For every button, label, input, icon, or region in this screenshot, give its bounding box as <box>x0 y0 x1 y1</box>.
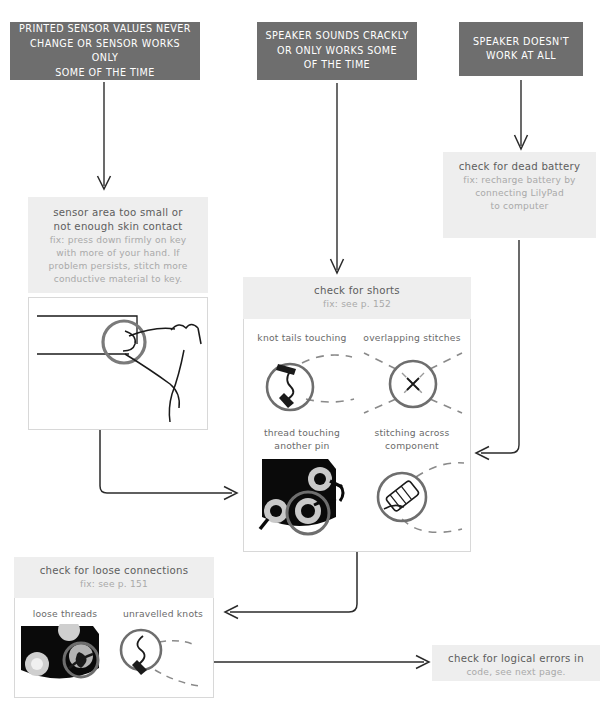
solution-box-logical-errors: check for logical errors in code, see ne… <box>432 645 600 681</box>
dead-battery-title: check for dead battery <box>451 160 588 174</box>
loose-connections-fix: fix: see p. 151 <box>20 578 208 591</box>
problem-line: OR ONLY WORKS SOME <box>265 44 408 59</box>
connector-sensor-problem-to-sensor-area <box>98 82 111 189</box>
sensor-area-fix-line: conductive material to key. <box>36 273 200 286</box>
problem-box-sensor: PRINTED SENSOR VALUES NEVER CHANGE OR SE… <box>10 22 200 80</box>
flowchart-canvas: PRINTED SENSOR VALUES NEVER CHANGE OR SE… <box>0 0 611 708</box>
sensor-area-fix-line: with more of your hand. If <box>36 247 200 260</box>
problem-line: CHANGE OR SENSOR WORKS ONLY <box>16 37 194 66</box>
connector-speaker-crackly-to-shorts <box>331 83 344 273</box>
problem-line: SPEAKER SOUNDS CRACKLY <box>265 29 408 44</box>
solution-box-dead-battery: check for dead battery fix: recharge bat… <box>443 152 596 238</box>
connector-sensor-area-to-shorts <box>100 429 237 500</box>
dead-battery-fix-line: to computer <box>451 200 588 213</box>
problem-line: WORK AT ALL <box>473 49 569 64</box>
figure-panel-finger-on-key <box>28 297 208 430</box>
connector-shorts-to-loose-connections <box>225 552 357 619</box>
figure-caption-overlapping-stitches: overlapping stitches <box>356 332 468 345</box>
figure-caption-thread-touching-another-pin: thread touching another pin <box>248 427 356 452</box>
thread-touching-another-pin-illustration <box>250 457 356 545</box>
overlapping-stitches-illustration <box>358 347 468 419</box>
problem-line: OF THE TIME <box>265 58 408 73</box>
sensor-area-fix-line: fix: press down firmly on key <box>36 234 200 247</box>
problem-line: SPEAKER DOESN'T <box>473 35 569 50</box>
shorts-header: check for shorts fix: see p. 152 <box>243 277 471 319</box>
connector-dead-battery-to-shorts <box>476 240 519 460</box>
figure-caption-knot-tails-touching: knot tails touching <box>248 332 356 345</box>
shorts-figures-panel: knot tails touching overlapping stitches <box>243 319 471 552</box>
unravelled-knots-illustration <box>113 624 213 696</box>
stitching-across-component-illustration <box>358 455 468 545</box>
sensor-area-title-line: not enough skin contact <box>36 220 200 234</box>
figure-caption-stitching-across-component: stitching across component <box>356 427 468 452</box>
dead-battery-fix-line: fix: recharge battery by <box>451 174 588 187</box>
figure-caption-unravelled-knots: unravelled knots <box>113 608 213 621</box>
logical-errors-title: check for logical errors in <box>440 652 592 666</box>
loose-threads-illustration <box>19 624 113 696</box>
problem-box-speaker-crackly: SPEAKER SOUNDS CRACKLY OR ONLY WORKS SOM… <box>257 22 417 80</box>
problem-line: PRINTED SENSOR VALUES NEVER <box>16 22 194 37</box>
logical-errors-fix: code, see next page. <box>440 666 592 679</box>
sensor-area-title-line: sensor area too small or <box>36 206 200 220</box>
knot-tails-touching-illustration <box>250 347 356 419</box>
solution-box-loose-connections: check for loose connections fix: see p. … <box>14 557 214 698</box>
solution-box-shorts: check for shorts fix: see p. 152 knot ta… <box>243 277 471 552</box>
loose-connections-figures-panel: loose threads unravelled knots <box>14 598 214 698</box>
solution-box-sensor-area: sensor area too small or not enough skin… <box>28 197 208 293</box>
connector-speaker-dead-to-dead-battery <box>515 80 528 149</box>
connector-loose-connections-to-logical-errors <box>213 656 429 669</box>
finger-pressing-key-illustration <box>29 298 207 429</box>
problem-line: SOME OF THE TIME <box>16 66 194 81</box>
loose-connections-title: check for loose connections <box>20 564 208 578</box>
shorts-fix: fix: see p. 152 <box>249 298 465 311</box>
shorts-title: check for shorts <box>249 284 465 298</box>
problem-box-speaker-dead: SPEAKER DOESN'T WORK AT ALL <box>459 22 583 76</box>
loose-connections-header: check for loose connections fix: see p. … <box>14 557 214 598</box>
figure-caption-loose-threads: loose threads <box>17 608 113 621</box>
sensor-area-fix-line: problem persists, stitch more <box>36 260 200 273</box>
dead-battery-fix-line: connecting LilyPad <box>451 187 588 200</box>
